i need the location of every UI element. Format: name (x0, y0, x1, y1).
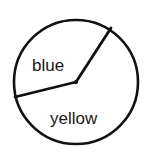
slice-label-blue: blue (32, 56, 64, 75)
pie-center (74, 80, 78, 84)
slice-label-yellow: yellow (50, 109, 98, 128)
pie-chart: blue yellow (0, 0, 151, 154)
